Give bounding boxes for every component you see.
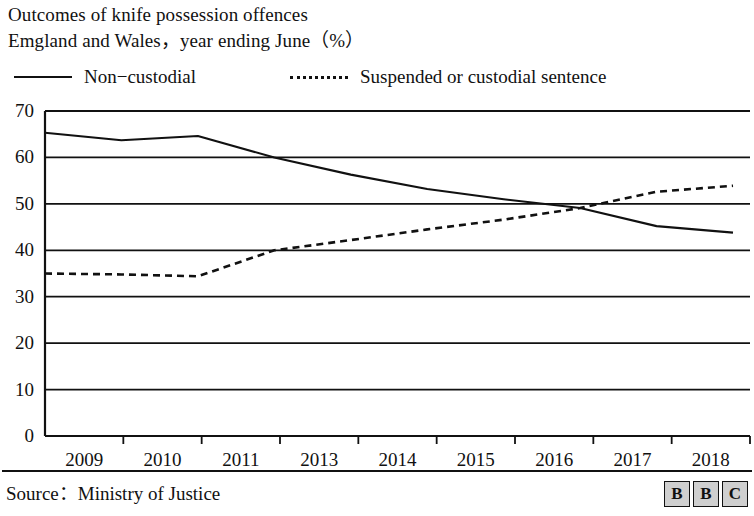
chart-title-block: Outcomes of knife possession offences Em… <box>8 2 708 54</box>
x-axis-tick-label: 2016 <box>514 450 594 469</box>
bbc-logo-letter-2: B <box>693 481 719 507</box>
legend-item-suspended-or-custodial: Suspended or custodial sentence <box>290 62 606 92</box>
x-axis-tick-label: 2011 <box>201 450 281 469</box>
y-axis-tick-label: 70 <box>0 101 34 120</box>
y-axis-tick-label: 0 <box>0 426 34 445</box>
y-axis-tick-label: 50 <box>0 194 34 213</box>
bbc-logo-letter-3: C <box>722 481 748 507</box>
series-line-non-custodial <box>45 133 733 233</box>
x-axis-tick-label: 2017 <box>593 450 673 469</box>
legend-item-non-custodial: Non−custodial <box>14 62 196 92</box>
x-axis-tick-label: 2013 <box>279 450 359 469</box>
solid-line-swatch-icon <box>14 70 72 84</box>
y-axis-tick-label: 40 <box>0 240 34 259</box>
series-line-suspended-or-custodial <box>45 186 733 277</box>
footer-divider <box>2 470 752 472</box>
chart-title: Outcomes of knife possession offences <box>8 2 708 28</box>
chart-subtitle: Emgland and Wales，year ending June（%） <box>8 28 708 54</box>
x-axis-tick-label: 2010 <box>123 450 203 469</box>
x-axis-tick-label: 2015 <box>436 450 516 469</box>
bbc-logo: B B C <box>664 481 748 507</box>
chart-legend: Non−custodial Suspended or custodial sen… <box>12 62 742 92</box>
source-note: Source：Ministry of Justice <box>6 478 220 505</box>
y-axis-tick-label: 10 <box>0 380 34 399</box>
x-axis-tick-label: 2009 <box>44 450 124 469</box>
legend-label-suspended-or-custodial: Suspended or custodial sentence <box>360 66 606 88</box>
plot-area: 706050403020100 200920102011201320142015… <box>0 96 754 456</box>
chart-page: Outcomes of knife possession offences Em… <box>0 0 754 516</box>
y-axis-tick-label: 20 <box>0 333 34 352</box>
chart-canvas <box>0 96 754 456</box>
dotted-line-swatch-icon <box>290 70 348 84</box>
legend-label-non-custodial: Non−custodial <box>84 66 196 88</box>
bbc-logo-letter-1: B <box>664 481 690 507</box>
y-axis-tick-label: 30 <box>0 287 34 306</box>
x-axis-tick-label: 2014 <box>358 450 438 469</box>
y-axis-tick-label: 60 <box>0 147 34 166</box>
x-axis-tick-label: 2018 <box>671 450 751 469</box>
